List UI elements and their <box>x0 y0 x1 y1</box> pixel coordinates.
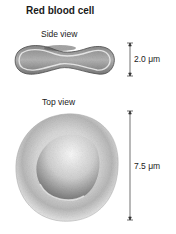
diagram-canvas <box>0 0 176 234</box>
side-view-scale-label: 2.0 μm <box>134 54 160 64</box>
top-view-cell <box>16 114 118 221</box>
side-view-scale-bar <box>127 43 133 76</box>
top-view-label: Top view <box>42 97 75 107</box>
top-view-scale-bar <box>127 111 133 220</box>
top-view-scale-label: 7.5 μm <box>134 161 160 171</box>
side-view-cell <box>15 45 114 74</box>
